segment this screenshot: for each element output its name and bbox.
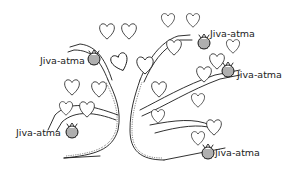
trunk [64,80,225,160]
fruit-top-right [198,34,210,49]
fruit-mid-right [222,62,234,77]
tree-diagram: Jiva-atma Jiva-atma Jiva-atma Jiva-atma … [0,0,290,189]
fruit-bottom-right [202,144,214,159]
label-top-left: Jiva-atma [40,56,85,66]
fruit-top-left [88,50,100,65]
fruit-bottom-left [66,123,78,138]
label-bottom-left: Jiva-atma [16,128,61,138]
label-bottom-right: Jiva-atma [215,148,260,158]
label-top-right: Jiva-atma [210,29,255,39]
label-mid-right: Jiva-atma [237,70,282,80]
